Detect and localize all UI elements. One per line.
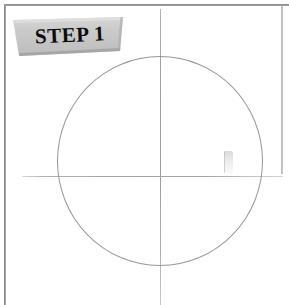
drawing-tutorial-page: STEP 1 bbox=[0, 0, 289, 305]
step-banner-label: STEP 1 bbox=[32, 21, 105, 50]
step-banner-label-wrap: STEP 1 bbox=[10, 11, 128, 60]
frame-right-rule bbox=[281, 6, 283, 174]
frame-left-rule bbox=[4, 4, 6, 305]
step-banner: STEP 1 bbox=[11, 14, 127, 58]
frame-top-rule bbox=[4, 4, 289, 6]
pencil-smudge-artifact bbox=[224, 151, 233, 173]
